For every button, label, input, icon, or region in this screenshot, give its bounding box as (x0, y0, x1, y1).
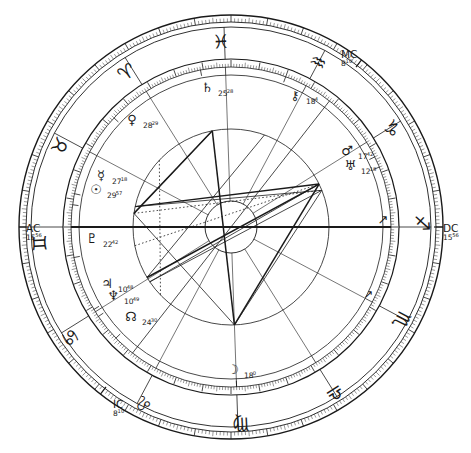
degree-tick-outer (373, 77, 376, 80)
house-cusp-line (156, 361, 160, 368)
planet-position-tick (74, 194, 80, 195)
house-spoke-line (245, 249, 312, 356)
degree-tick-outer (39, 145, 42, 146)
degree-tick-outer (422, 300, 425, 301)
degree-tick-inner (161, 77, 163, 82)
degree-tick-outer (69, 91, 74, 95)
degree-tick-inner (103, 120, 108, 124)
degree-tick-outer (294, 422, 295, 425)
planet-minute: 49 (133, 296, 140, 302)
degree-tick-outer (354, 60, 356, 63)
degree-tick-inner (133, 355, 135, 358)
degree-tick-inner (108, 120, 110, 122)
degree-tick-outer (184, 24, 185, 28)
degree-tick-inner (364, 136, 367, 138)
zodiac-glyph-capricorn: ♑ (378, 115, 406, 141)
degree-tick-outer (38, 304, 41, 305)
degree-tick-inner (278, 380, 279, 383)
planet-minute: 18 (121, 176, 128, 182)
degree-tick-inner (145, 89, 147, 92)
degree-tick-inner (135, 356, 137, 359)
planet-minute: 29 (152, 120, 159, 126)
degree-tick-inner (375, 155, 378, 156)
degree-tick-outer (432, 187, 436, 188)
house-cusp-line (90, 152, 97, 156)
degree-tick-inner (316, 363, 318, 366)
degree-tick-outer (301, 420, 303, 427)
degree-tick-outer (434, 256, 438, 257)
degree-tick-inner (323, 358, 326, 362)
degree-tick-outer (425, 159, 428, 160)
degree-tick-inner (76, 177, 79, 178)
degree-tick-outer (304, 418, 305, 421)
degree-tick-inner (264, 384, 265, 387)
degree-tick-outer (330, 406, 332, 409)
degree-tick-outer (284, 425, 285, 430)
degree-tick-inner (385, 271, 388, 272)
degree-tick-outer (368, 379, 370, 382)
degree-tick-outer (321, 411, 323, 414)
degree-tick-outer (386, 90, 389, 92)
degree-tick-inner (154, 83, 156, 86)
degree-tick-inner (357, 326, 360, 328)
degree-tick-outer (188, 23, 189, 27)
degree-tick-inner (96, 319, 100, 322)
degree-tick-inner (301, 371, 302, 374)
degree-tick-inner (75, 179, 78, 180)
degree-tick-inner (286, 377, 288, 384)
degree-tick-inner (346, 338, 348, 340)
degree-tick-outer (304, 32, 305, 35)
aspect-line (134, 213, 234, 325)
degree-tick-inner (205, 385, 206, 388)
degree-tick-inner (370, 307, 376, 311)
degree-tick-outer (170, 28, 171, 31)
degree-tick-inner (79, 169, 82, 170)
degree-tick-outer (421, 304, 424, 305)
aspect-line (234, 184, 319, 325)
planet-venus: ♀2829 (114, 112, 158, 130)
degree-tick-inner (118, 342, 120, 344)
degree-tick-outer (52, 120, 55, 122)
degree-tick-inner (84, 297, 87, 298)
degree-tick-inner (131, 98, 133, 101)
degree-tick-inner (157, 82, 158, 85)
degree-tick-inner (205, 66, 206, 69)
degree-tick-inner (386, 188, 389, 189)
degree-tick-inner (278, 71, 279, 74)
degree-tick-inner (181, 72, 182, 75)
degree-tick-inner (124, 348, 126, 350)
degree-tick-outer (330, 45, 332, 48)
degree-tick-inner (104, 124, 106, 126)
degree-tick-outer (64, 101, 67, 103)
degree-tick-inner (88, 148, 91, 150)
zodiac-glyph-leo: ♌ (131, 390, 156, 417)
degree-tick-outer (198, 429, 199, 433)
planet-minute: 28 (227, 88, 234, 94)
degree-tick-inner (67, 198, 74, 199)
degree-tick-inner (381, 170, 388, 172)
degree-tick-outer (371, 74, 373, 77)
degree-tick-outer (47, 129, 50, 131)
degree-tick-inner (84, 155, 87, 156)
degree-tick-outer (337, 48, 339, 51)
degree-tick-inner (270, 382, 271, 385)
degree-tick-outer (114, 54, 116, 57)
degree-tick-inner (94, 314, 97, 316)
angle-minute: 10 (346, 58, 353, 64)
degree-tick-inner (101, 323, 104, 325)
degree-tick-inner (152, 367, 154, 370)
degree-tick-inner (173, 75, 174, 78)
degree-tick-outer (170, 423, 171, 426)
zodiac-glyph-aquarius: ♒ (306, 48, 331, 75)
degree-tick-outer (32, 166, 35, 167)
degree-tick-outer (401, 342, 404, 344)
degree-tick-outer (111, 55, 114, 59)
degree-tick-inner (256, 385, 257, 388)
degree-tick-outer (274, 23, 275, 27)
degree-tick-outer (414, 132, 417, 134)
degree-tick-inner (371, 305, 374, 307)
planet-saturn: ♄2528 (200, 70, 233, 98)
degree-tick-inner (375, 297, 378, 298)
degree-tick-inner (381, 282, 388, 284)
degree-tick-outer (368, 72, 370, 75)
